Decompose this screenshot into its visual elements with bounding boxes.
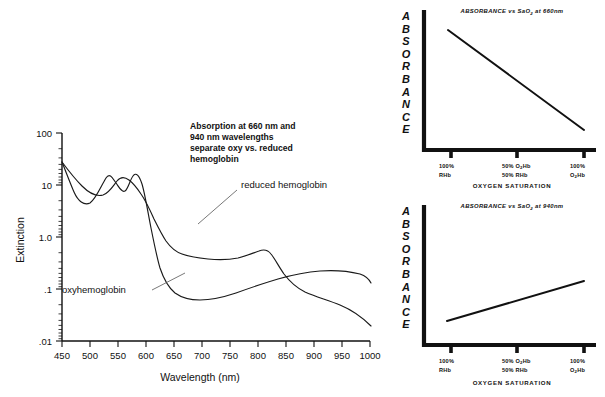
leader-reduced	[198, 190, 237, 224]
annotation-text: Absorption at 660 nm and 940 nm waveleng…	[190, 121, 296, 164]
svg-text:O2Hb: O2Hb	[570, 367, 585, 374]
panel-660-tick-labels: 100% RHb 50% O2Hb 50% RHb 100% O2Hb	[439, 163, 585, 179]
label-oxyhemoglobin: oxyhemoglobin	[62, 284, 126, 295]
x-tick-label-11: 1000	[359, 350, 380, 361]
svg-text:100%: 100%	[439, 163, 454, 169]
panel-940-title: ABSORBANCE vs SaO2 at 940nm	[460, 203, 564, 211]
x-tick-label-3: 600	[138, 350, 154, 361]
svg-text:50% O2Hb: 50% O2Hb	[502, 163, 531, 170]
panel-940-axes	[424, 205, 596, 345]
svg-text:50% RHb: 50% RHb	[502, 367, 528, 373]
leader-oxy	[152, 273, 185, 290]
panel-660-trend-line	[448, 30, 584, 130]
svg-text:hemoglobin: hemoglobin	[190, 154, 239, 164]
x-tick-label-10: 950	[334, 350, 350, 361]
panel-absorbance-660nm: ABSORBANCE ABSORBANCE vs SaO2 at 660nm 1…	[398, 2, 601, 195]
x-axis-ticks	[62, 341, 370, 347]
svg-text:100%: 100%	[570, 163, 585, 169]
panel-940-trend-line	[447, 281, 584, 321]
panel-absorbance-940nm: ABSORBANCE ABSORBANCE vs SaO2 at 940nm 1…	[398, 197, 601, 395]
y-tick-label-2: 1.0	[39, 232, 52, 243]
panel-660-plot: ABSORBANCE vs SaO2 at 660nm 100% RHb 50%…	[412, 2, 601, 195]
y-tick-label-1: 10	[41, 180, 52, 191]
svg-text:RHb: RHb	[439, 367, 451, 373]
svg-text:100%: 100%	[570, 358, 585, 364]
svg-text:100%: 100%	[439, 358, 454, 364]
svg-text:Absorption at 660 nm and: Absorption at 660 nm and	[190, 121, 296, 131]
panel-660-xlabel: OXYGEN SATURATION	[473, 182, 552, 189]
svg-text:50% O2Hb: 50% O2Hb	[502, 358, 531, 365]
panel-940-xlabel: OXYGEN SATURATION	[473, 379, 552, 386]
y-tick-label-3: .1	[44, 284, 52, 295]
x-tick-label-7: 800	[250, 350, 266, 361]
y-tick-label-0: 100	[36, 128, 52, 139]
spectrum-plot: 100 10 1.0 .1 .01 450 500 5	[0, 0, 390, 397]
panel-940-tick-labels: 100% RHb 50% O2Hb 50% RHb 100% O2Hb	[439, 358, 585, 374]
x-tick-label-4: 650	[166, 350, 182, 361]
x-tick-label-5: 700	[194, 350, 210, 361]
x-tick-label-0: 450	[54, 350, 70, 361]
panel-940-plot: ABSORBANCE vs SaO2 at 940nm 100% RHb 50%…	[412, 197, 601, 395]
panel-660-title: ABSORBANCE vs SaO2 at 660nm	[460, 8, 564, 16]
x-axis-title: Wavelength (nm)	[160, 371, 240, 383]
svg-text:O2Hb: O2Hb	[570, 172, 585, 179]
svg-text:separate oxy vs. reduced: separate oxy vs. reduced	[190, 143, 293, 153]
x-tick-label-1: 500	[82, 350, 98, 361]
y-tick-label-4: .01	[39, 336, 52, 347]
x-tick-label-2: 550	[110, 350, 126, 361]
y-axis-title: Extinction	[14, 217, 26, 263]
x-tick-label-9: 900	[306, 350, 322, 361]
svg-text:940 nm wavelengths: 940 nm wavelengths	[190, 132, 274, 142]
svg-text:50% RHb: 50% RHb	[502, 172, 528, 178]
svg-text:RHb: RHb	[439, 172, 451, 178]
x-tick-label-6: 750	[222, 350, 238, 361]
figure-root: 100 10 1.0 .1 .01 450 500 5	[0, 0, 605, 397]
x-tick-label-8: 850	[278, 350, 294, 361]
label-reduced-hemoglobin: reduced hemoglobin	[241, 179, 327, 190]
hemoglobin-spectrum-panel: 100 10 1.0 .1 .01 450 500 5	[0, 0, 390, 397]
